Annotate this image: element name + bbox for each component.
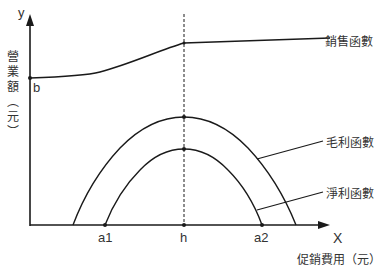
y-title-char: 營	[6, 50, 20, 65]
a1-label: a1	[98, 230, 112, 245]
x-axis-label: X	[333, 230, 342, 246]
gross-profit-label: 毛利函數	[326, 133, 374, 150]
a1-point	[103, 223, 107, 227]
y-axis-arrow-icon	[26, 14, 34, 26]
a2-point	[260, 223, 264, 227]
sales-h-point	[183, 42, 186, 45]
x-axis-title: 促銷費用（元）	[297, 250, 381, 267]
net-peak-point	[182, 147, 186, 151]
net-profit-label: 淨利函數	[326, 184, 374, 201]
h-point	[182, 223, 186, 227]
gross-peak-point	[182, 115, 186, 119]
h-label: h	[180, 230, 187, 245]
y-title-char: ︶	[6, 125, 20, 140]
y-axis-title: 營 業 額 ︵ 元 ︶	[6, 50, 20, 140]
gross-leader-line	[257, 141, 323, 159]
y-axis-label: y	[18, 5, 25, 20]
a2-label: a2	[254, 230, 268, 245]
sales-function-label: 銷售函數	[325, 32, 373, 49]
y-title-char: 額	[6, 80, 20, 95]
b-label: b	[33, 80, 40, 95]
b-point	[28, 76, 32, 80]
y-title-char: 元	[6, 110, 20, 125]
y-title-char: ︵	[6, 95, 20, 110]
y-title-char: 業	[6, 65, 20, 80]
sales-curve	[30, 38, 330, 78]
net-leader-line	[257, 192, 323, 210]
x-axis-arrow-icon	[318, 221, 330, 229]
